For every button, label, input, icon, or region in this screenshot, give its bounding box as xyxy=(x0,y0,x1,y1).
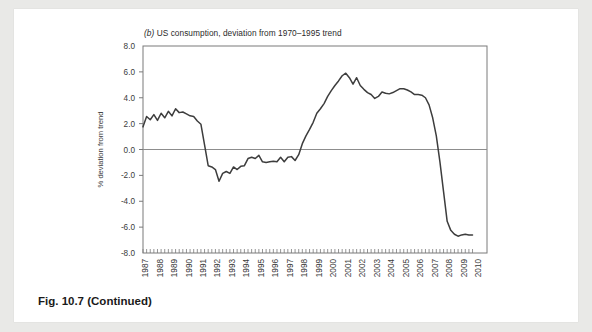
y-tick-label: 2.0 xyxy=(124,120,136,129)
y-tick-label: 0.0 xyxy=(124,146,136,155)
y-tick-label: -6.0 xyxy=(121,223,136,232)
y-tick-label: -2.0 xyxy=(121,171,136,180)
x-tick-label: 2003 xyxy=(373,259,382,278)
series-polyline xyxy=(143,73,473,236)
figure-card: (b) US consumption, deviation from 1970–… xyxy=(14,9,578,322)
x-tick-label: 2005 xyxy=(402,259,411,278)
x-tick-label: 1999 xyxy=(315,259,324,278)
chart-plot-area: 8.06.04.02.00.0-2.0-4.0-6.0-8.0 19871988… xyxy=(14,9,578,322)
x-tick-label: 2009 xyxy=(460,259,469,278)
x-tick-label: 2000 xyxy=(329,259,338,278)
x-tick-label: 2001 xyxy=(344,259,353,278)
data-series-line xyxy=(143,73,473,236)
figure-caption: Fig. 10.7 (Continued) xyxy=(38,295,152,307)
line-chart-svg: 8.06.04.02.00.0-2.0-4.0-6.0-8.0 19871988… xyxy=(14,9,578,322)
x-tick-label: 1993 xyxy=(228,259,237,278)
x-tick-label: 1990 xyxy=(185,259,194,278)
y-tick-label: 6.0 xyxy=(124,68,136,77)
x-tick-label: 2008 xyxy=(445,259,454,278)
x-tick-label: 1995 xyxy=(257,259,266,278)
x-tick-label: 2002 xyxy=(358,259,367,278)
y-axis-label: % deviation from trend xyxy=(96,112,105,188)
x-tick-label: 1997 xyxy=(286,259,295,278)
y-axis-title: % deviation from trend xyxy=(96,112,105,188)
x-tick-label: 1998 xyxy=(300,259,309,278)
y-tick-label: -4.0 xyxy=(121,197,136,206)
x-tick-label: 1991 xyxy=(199,259,208,278)
x-tick-label: 1992 xyxy=(213,259,222,278)
x-tick-label: 1989 xyxy=(170,259,179,278)
figure-caption-continued: (Continued) xyxy=(87,295,152,307)
y-tick-label: 4.0 xyxy=(124,94,136,103)
x-tick-label: 1987 xyxy=(141,259,150,278)
y-axis: 8.06.04.02.00.0-2.0-4.0-6.0-8.0 xyxy=(121,42,143,258)
figure-page: (b) US consumption, deviation from 1970–… xyxy=(0,0,592,332)
x-tick-label: 2006 xyxy=(416,259,425,278)
figure-caption-number: Fig. 10.7 xyxy=(38,295,84,307)
x-tick-label: 1994 xyxy=(242,259,251,278)
y-tick-label: 8.0 xyxy=(124,42,136,51)
x-tick-label: 1988 xyxy=(156,259,165,278)
y-tick-label: -8.0 xyxy=(121,249,136,258)
x-tick-label: 2007 xyxy=(431,259,440,278)
x-tick-label: 1996 xyxy=(271,259,280,278)
x-tick-label: 2010 xyxy=(474,259,483,278)
x-tick-label: 2004 xyxy=(387,259,396,278)
